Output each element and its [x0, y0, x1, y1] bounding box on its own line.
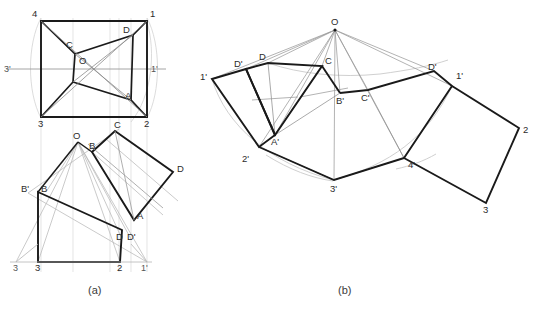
label-b-dprime-l: D' — [234, 58, 243, 69]
label-b-2: 2 — [523, 124, 528, 135]
label-front-3prime: 3 — [13, 263, 18, 273]
chord-aprime-bprime — [275, 93, 340, 135]
chord-4prime-cprime — [368, 90, 404, 158]
inner-top-chain — [75, 21, 147, 54]
label-corner-2: 2 — [144, 118, 149, 129]
label-corner-4: 4 — [32, 8, 37, 19]
label-front-b: B — [89, 140, 95, 151]
radial-o-dprime-left — [246, 30, 335, 69]
flap-1prime-dprime-aprime-2prime — [212, 69, 275, 147]
label-axis-3prime: 3' — [4, 64, 11, 74]
label-axis-1prime: 1' — [151, 64, 158, 74]
radial-o-cprime — [335, 30, 368, 90]
tick-1prime — [131, 244, 147, 262]
front-view-trapezoid — [38, 192, 122, 262]
label-b-dprime-r: D' — [428, 61, 437, 72]
label-corner-1: 1 — [150, 8, 155, 19]
radial-o-1prime-right — [335, 30, 452, 86]
panel-b-labels: O D C D' 1' D' 1' B' C' A' 2 2' 4' 3' 3 — [200, 16, 528, 215]
development-outline — [212, 63, 519, 203]
radial-o-dprime-right — [335, 30, 434, 71]
label-point-o: O — [79, 55, 86, 66]
arc-left — [31, 18, 42, 118]
label-b-3prime: 3' — [330, 183, 337, 194]
tick-3prime — [16, 244, 38, 262]
figure-container: 4 1 3 2 C D O A 3' 1' O C B B' B D A D — [0, 0, 547, 315]
arc-segment-right — [396, 154, 436, 169]
caption-panel-a: (a) — [88, 284, 101, 296]
label-front-a: A — [137, 210, 144, 221]
radial-o-bprime — [335, 30, 340, 93]
label-b-1prime-l: 1' — [200, 71, 207, 82]
label-front-2: 2 — [117, 262, 122, 273]
apex-point-marker — [333, 28, 336, 31]
label-b-o: O — [331, 16, 338, 27]
ray-o-to-2 — [78, 142, 120, 262]
label-point-a: A — [125, 90, 132, 101]
label-point-d: D — [123, 24, 130, 35]
label-point-c: C — [66, 39, 73, 50]
panel-a-top-labels: 4 1 3 2 C D O A 3' 1' — [4, 8, 158, 129]
flap-4prime-1prime-2-3 — [404, 86, 519, 203]
radial-o-aprime — [275, 30, 335, 135]
label-front-d: D — [177, 163, 184, 174]
label-front-c: C — [114, 119, 121, 130]
captions-group: (a) (b) — [88, 284, 351, 296]
label-b-aprime: A' — [271, 136, 279, 147]
panel-a-group: 4 1 3 2 C D O A 3' 1' O C B B' B D A D — [4, 8, 184, 273]
label-b-3: 3 — [483, 204, 488, 215]
arc-inner-right — [131, 22, 152, 122]
line-3prime-to-o — [16, 142, 78, 262]
caption-panel-b: (b) — [338, 284, 351, 296]
radial-o-1prime-left — [212, 30, 335, 79]
apex-dot — [333, 28, 336, 31]
line-bprime-to-1prime — [28, 193, 147, 262]
label-front-bprime: B' — [21, 183, 29, 194]
label-b-2prime: 2' — [242, 153, 249, 164]
label-front-b2: B — [41, 183, 47, 194]
edge-c-bprime — [322, 66, 340, 93]
label-b-cprime: C' — [361, 92, 370, 103]
chain-bprime-cprime-dprime-1prime — [340, 71, 452, 93]
label-front-3: 3 — [35, 262, 40, 273]
radial-o-3prime — [334, 30, 335, 180]
flap-dprime-d-c-aprime — [246, 63, 322, 135]
label-front-o: O — [73, 130, 80, 141]
label-b-bprime: B' — [336, 95, 344, 106]
label-b-c: C — [325, 55, 332, 66]
label-b-4prime: 4' — [408, 159, 415, 170]
tilted-diagonal-1 — [88, 144, 163, 208]
guide-b-to-lower-right — [92, 152, 163, 215]
label-b-1prime-r: 1' — [456, 70, 463, 81]
label-front-d2: D — [116, 231, 123, 242]
development-chords — [246, 63, 452, 180]
label-b-d: D — [259, 51, 266, 62]
trapezoid-outline — [38, 192, 122, 262]
panel-b-group: O D C D' 1' D' 1' B' C' A' 2 2' 4' 3' 3 — [200, 16, 528, 215]
technical-drawing-svg: 4 1 3 2 C D O A 3' 1' O C B B' B D A D — [0, 0, 547, 315]
label-front-1prime: 1' — [141, 263, 148, 273]
label-corner-3: 3 — [38, 118, 43, 129]
ray-o-to-1prime — [78, 142, 147, 262]
label-front-dprime: D' — [127, 231, 136, 242]
